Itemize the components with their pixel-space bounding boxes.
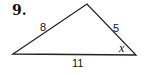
side-label-left: 8 [40,21,46,33]
side-label-bottom: 11 [72,57,83,69]
side-label-right: 5 [113,22,119,34]
triangle-figure: 8 5 11 x [0,0,145,75]
angle-label-x: x [118,41,125,55]
